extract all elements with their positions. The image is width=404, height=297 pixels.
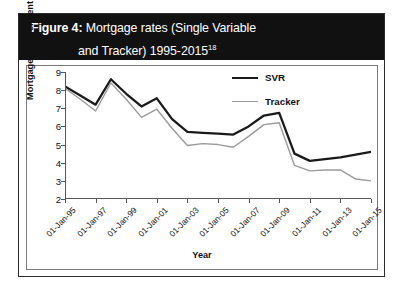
figure-number-label: Figure 4: <box>31 21 82 35</box>
figure-title-line-2: and Tracker) 1995-201518 <box>31 38 374 61</box>
y-axis-tick-mark <box>61 108 65 109</box>
x-axis-tick-label: 01-Jan-13 <box>320 205 354 239</box>
legend-item-tracker: Tracker <box>232 96 300 107</box>
x-axis-tick-mark <box>157 199 158 203</box>
y-axis-title: Mortgage rate per cent <box>25 86 35 100</box>
y-axis-tick-mark <box>61 72 65 73</box>
x-axis-tick-mark <box>187 199 188 203</box>
x-axis-tick-mark <box>371 199 372 203</box>
x-axis-tick-mark <box>340 199 341 203</box>
x-axis-tick-mark <box>65 199 66 203</box>
figure-card: Figure 4: Mortgage rates (Single Variabl… <box>18 13 385 277</box>
y-axis-tick-mark <box>61 126 65 127</box>
legend-swatch-svr-icon <box>232 77 258 79</box>
x-axis-tick-mark <box>126 199 127 203</box>
figure-title-text-part-2: and Tracker) 1995-2015 <box>78 44 208 58</box>
x-axis-tick-label: 01-Jan-07 <box>228 205 262 239</box>
series-line-svr <box>65 79 371 161</box>
y-axis-tick-mark <box>61 163 65 164</box>
figure-title-text-part-1: Mortgage rates (Single Variable <box>86 21 256 35</box>
legend-swatch-tracker-icon <box>232 101 258 102</box>
chart-legend: SVR Tracker <box>232 72 300 120</box>
y-axis-tick-mark <box>61 181 65 182</box>
x-axis-tick-label: 01-Jan-05 <box>197 205 231 239</box>
x-axis-tick-label: 01-Jan-15 <box>350 205 384 239</box>
legend-label-tracker: Tracker <box>265 96 300 107</box>
footnote-marker: 18 <box>208 43 216 52</box>
series-lines <box>65 72 371 199</box>
x-axis-tick-mark <box>279 199 280 203</box>
x-axis-tick-mark <box>249 199 250 203</box>
plot-canvas: 98765432 01-Jan-9501-Jan-9701-Jan-9901-J… <box>65 72 371 199</box>
x-axis-tick-label: 01-Jan-99 <box>106 205 140 239</box>
legend-label-svr: SVR <box>265 72 285 83</box>
legend-item-svr: SVR <box>232 72 300 83</box>
x-axis-title: Year <box>27 250 377 260</box>
x-axis-tick-label: 01-Jan-01 <box>136 205 170 239</box>
series-line-tracker <box>65 83 371 181</box>
y-axis-line <box>65 72 66 199</box>
x-axis-tick-label: 01-Jan-03 <box>167 205 201 239</box>
y-axis-tick-mark <box>61 145 65 146</box>
plot-frame: Mortgage rate per cent 98765432 01-Jan-9… <box>26 65 378 270</box>
y-axis-tick-mark <box>61 90 65 91</box>
x-axis-tick-mark <box>96 199 97 203</box>
x-axis-tick-label: 01-Jan-97 <box>75 205 109 239</box>
x-axis-tick-label: 01-Jan-09 <box>259 205 293 239</box>
x-axis-tick-mark <box>218 199 219 203</box>
x-axis-tick-label: 01-Jan-95 <box>44 205 78 239</box>
figure-title-line-1: Figure 4: Mortgage rates (Single Variabl… <box>31 19 374 38</box>
x-axis-tick-label: 01-Jan-11 <box>290 205 323 238</box>
figure-header: Figure 4: Mortgage rates (Single Variabl… <box>19 14 384 60</box>
plot-shell: Mortgage rate per cent 98765432 01-Jan-9… <box>19 60 384 276</box>
x-axis-tick-mark <box>310 199 311 203</box>
